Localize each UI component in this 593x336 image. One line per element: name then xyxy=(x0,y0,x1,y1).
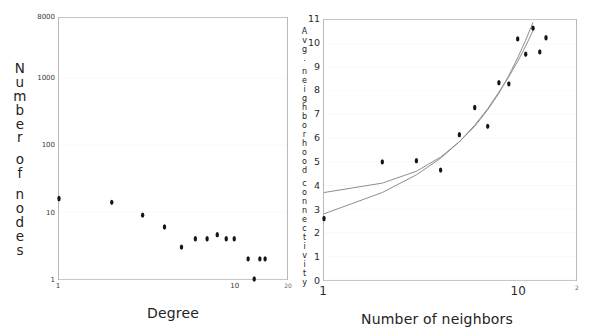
plot-area-degree-distribution xyxy=(58,17,288,280)
data-point xyxy=(246,256,249,261)
y-tick-label: 3 xyxy=(306,205,320,215)
x-tick-label: 2 xyxy=(575,285,579,291)
data-point xyxy=(458,132,461,137)
data-point xyxy=(57,196,60,201)
data-point xyxy=(233,236,236,241)
data-point xyxy=(216,232,219,237)
data-point xyxy=(439,167,442,172)
data-point xyxy=(524,52,527,57)
x-axis-title-right: Number of neighbors xyxy=(361,311,513,327)
data-point xyxy=(516,36,519,41)
y-tick-label: 2 xyxy=(306,229,320,239)
figure-container: Numberofnodes 11010010008000 11020 Degre… xyxy=(0,0,593,336)
y-tick-label: 8000 xyxy=(33,14,55,21)
y-tick-label: 10 xyxy=(33,209,55,216)
y-tick-label: 0 xyxy=(306,276,320,286)
title-char: d xyxy=(302,167,307,176)
y-tick-label: 8 xyxy=(306,86,320,96)
data-point xyxy=(141,213,144,218)
y-axis-title-left: Numberofnodes xyxy=(12,62,28,257)
x-tick-label: 1 xyxy=(319,285,327,297)
data-point xyxy=(253,276,256,281)
y-tick-label: 1 xyxy=(306,252,320,262)
title-char: s xyxy=(16,244,23,258)
x-tick-label: 10 xyxy=(230,283,239,290)
x-tick-label: 20 xyxy=(284,283,292,289)
y-tick-label: 6 xyxy=(306,133,320,143)
y-tick-label: 100 xyxy=(33,142,55,149)
plot-canvas-neighborhood-connectivity xyxy=(324,20,576,280)
data-point xyxy=(381,159,384,164)
chart-panel-degree-distribution: Numberofnodes 11010010008000 11020 Degre… xyxy=(0,0,296,336)
title-char: r xyxy=(17,131,23,145)
y-tick-label: 11 xyxy=(306,14,320,24)
title-char: f xyxy=(18,167,23,181)
data-point xyxy=(507,81,510,86)
data-point xyxy=(531,26,534,31)
x-axis-title-left: Degree xyxy=(147,305,199,321)
y-tick-label: 7 xyxy=(306,110,320,120)
x-tick-label: 10 xyxy=(511,285,526,297)
y-tick-label: 5 xyxy=(306,157,320,167)
data-point xyxy=(225,236,228,241)
chart-panel-neighborhood-connectivity: Avg.neighborhoodconnectivity 01234567891… xyxy=(296,0,593,336)
data-point xyxy=(258,256,261,261)
data-point xyxy=(205,236,208,241)
fit-curve-power-law-fit-b xyxy=(324,31,533,214)
y-tick-label: 10 xyxy=(306,38,320,48)
data-point xyxy=(180,244,183,249)
data-point xyxy=(322,216,325,221)
data-point xyxy=(163,224,166,229)
data-point xyxy=(473,105,476,110)
data-point xyxy=(497,80,500,85)
data-point xyxy=(486,124,489,129)
data-point xyxy=(194,236,197,241)
data-point xyxy=(110,200,113,205)
y-tick-label: 4 xyxy=(306,181,320,191)
data-point xyxy=(263,256,266,261)
data-point xyxy=(415,158,418,163)
y-tick-label: 1 xyxy=(33,277,55,284)
plot-canvas-degree-distribution xyxy=(59,18,287,279)
data-point xyxy=(538,49,541,54)
y-tick-label: 9 xyxy=(306,62,320,72)
x-tick-label: 1 xyxy=(56,283,60,290)
data-point xyxy=(544,35,547,40)
plot-area-neighborhood-connectivity xyxy=(323,19,577,281)
y-tick-label: 1000 xyxy=(33,74,55,81)
